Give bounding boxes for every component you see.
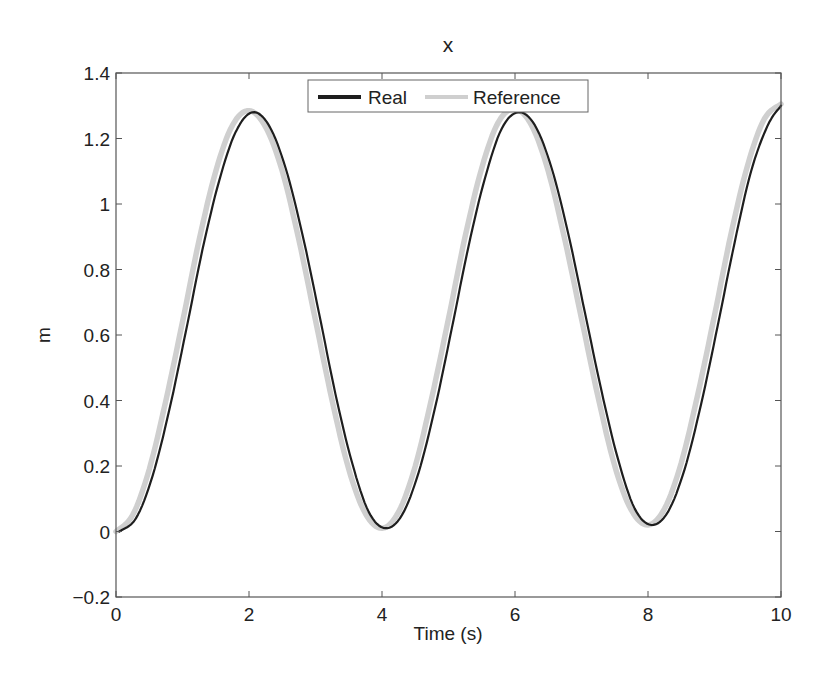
y-tick-label: −0.2 (72, 587, 110, 608)
legend: Real Reference (308, 80, 588, 112)
y-tick-label: 1.2 (84, 129, 110, 150)
legend-label-reference: Reference (473, 87, 561, 108)
x-axis-label: Time (s) (414, 623, 483, 644)
x-tick-label: 2 (244, 604, 255, 625)
y-tick-label: 0.2 (84, 456, 110, 477)
y-tick-label: 0.6 (84, 325, 110, 346)
series-layer (116, 104, 781, 531)
y-tick-label: 0.8 (84, 260, 110, 281)
x-tick-label: 10 (770, 604, 791, 625)
y-tick-label: 0 (99, 522, 110, 543)
y-tick-label: 1.4 (84, 63, 111, 84)
legend-label-real: Real (368, 87, 407, 108)
y-tick-label: 1 (99, 194, 110, 215)
x-tick-label: 4 (377, 604, 388, 625)
y-axis-label: m (33, 327, 54, 343)
line-chart: x 0246810−0.200.20.40.60.811.21.4 Time (… (0, 0, 827, 685)
plot-area-frame (116, 73, 781, 597)
y-tick-label: 0.4 (84, 391, 111, 412)
x-tick-label: 8 (643, 604, 654, 625)
reference-line (116, 104, 781, 531)
x-tick-label: 0 (111, 604, 122, 625)
chart-title: x (443, 33, 454, 56)
x-tick-label: 6 (510, 604, 521, 625)
